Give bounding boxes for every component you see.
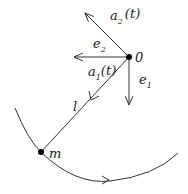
e2-label: e2 [93,36,106,54]
pendulum-diagram: 0 m a2(t) e2 a1(t) e1 l [0,0,188,194]
diagram-canvas: 0 m a2(t) e2 a1(t) e1 l [0,0,188,194]
origin-label: 0 [135,50,143,65]
a2-label: a2(t) [110,6,140,26]
origin-point [126,54,132,60]
trajectory-direction-arrow-icon [102,176,109,184]
mass-point [38,149,44,155]
trajectory-arc [15,108,178,181]
e1-label: e1 [139,72,152,90]
mass-label: m [49,146,61,161]
a1-label: a1(t) [88,63,116,82]
rod-length-label: l [73,99,77,114]
